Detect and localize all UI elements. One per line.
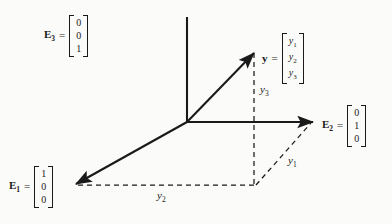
basis-e2-name: E2 xyxy=(322,119,333,133)
matrix-cell: y1 xyxy=(289,34,297,50)
vector-y-arrow xyxy=(187,53,254,122)
basis-e1-name: E1 xyxy=(9,180,20,194)
basis-e1-equals: = xyxy=(23,181,31,192)
bracket-right xyxy=(299,33,304,84)
axis-e1-oblique xyxy=(76,122,187,184)
matrix-cell: 0 xyxy=(76,16,81,29)
basis-label-e2: E2 = 0 1 0 xyxy=(322,104,366,148)
component-label-y2: y2 xyxy=(157,190,166,204)
matrix-cell: 0 xyxy=(76,29,81,42)
vector-y-matrix: y1 y2 y3 xyxy=(282,32,304,85)
basis-e3-equals: = xyxy=(58,30,66,41)
matrix-cell: 0 xyxy=(41,193,46,206)
bracket-right xyxy=(48,166,53,208)
basis-label-e1: E1 = 1 0 0 xyxy=(9,165,53,209)
matrix-cell: 1 xyxy=(76,42,81,55)
matrix-cell: 0 xyxy=(354,132,359,145)
matrix-cell: 1 xyxy=(354,119,359,132)
vector-decomposition-figure: E3 = 0 0 1 y = y1 y2 y3 E2 xyxy=(0,0,392,224)
matrix-cell: y2 xyxy=(289,50,297,66)
basis-e2-matrix: 0 1 0 xyxy=(347,104,366,148)
dashed-diagonal-line-y1 xyxy=(256,123,311,185)
basis-e2-equals: = xyxy=(336,120,344,131)
vector-y-equals: = xyxy=(271,53,279,64)
matrix-cell: 1 xyxy=(41,167,46,180)
basis-e3-name: E3 xyxy=(44,29,55,43)
component-label-y1: y1 xyxy=(288,155,297,169)
bracket-right xyxy=(361,105,366,147)
vector-label-y: y = y1 y2 y3 xyxy=(262,32,304,85)
basis-e1-matrix: 1 0 0 xyxy=(34,165,53,209)
bracket-right xyxy=(83,15,88,57)
basis-e3-matrix: 0 0 1 xyxy=(69,14,88,58)
matrix-cell: y3 xyxy=(289,66,297,82)
basis-label-e3: E3 = 0 0 1 xyxy=(44,14,88,58)
vector-y-name: y xyxy=(262,53,268,64)
component-label-y3: y3 xyxy=(260,84,269,98)
matrix-cell: 0 xyxy=(354,106,359,119)
matrix-cell: 0 xyxy=(41,180,46,193)
